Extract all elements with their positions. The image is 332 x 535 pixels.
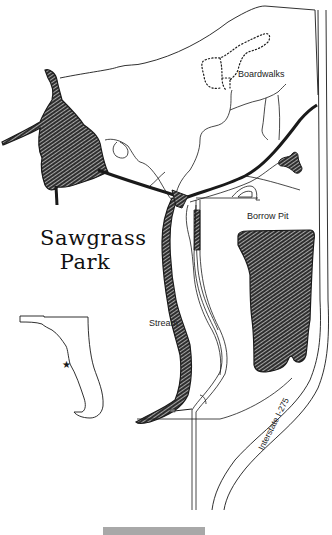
canal-west (98, 170, 185, 200)
road-hook (200, 395, 206, 404)
parking-loop-inner (238, 191, 252, 197)
channel-secondary (186, 205, 220, 375)
park-boundary (60, 6, 318, 95)
lake-west (2, 70, 108, 190)
borrow-pit-label: Borrow Pit (247, 211, 289, 221)
boardwalks-label: Boardwalks (238, 69, 285, 79)
boardwalk-trail (202, 34, 270, 90)
footer-bar (103, 527, 205, 535)
building (170, 409, 175, 412)
creek-4 (262, 98, 268, 140)
park-title-line1: Sawgrass (40, 226, 130, 250)
stream-label: Stream (149, 318, 178, 328)
park-title: Sawgrass Park (40, 226, 130, 274)
creek-3 (230, 84, 286, 110)
lake-tail (56, 186, 57, 205)
creek-5 (278, 95, 280, 140)
borrow-pit (238, 230, 314, 372)
canal-northeast (185, 105, 317, 198)
creek-6 (150, 172, 165, 186)
road-to-pond (245, 176, 300, 190)
park-title-line2: Park (40, 250, 130, 274)
pond-northeast (279, 152, 302, 173)
star-icon: ★ (62, 359, 71, 370)
